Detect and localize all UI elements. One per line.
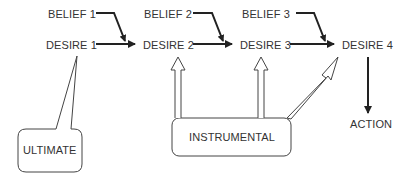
- arrow-belief3-to-desire4: [296, 13, 325, 41]
- hollow-arrow-to-desire2: [171, 57, 185, 118]
- hollow-arrow-to-desire3: [254, 57, 268, 118]
- arrow-belief1-to-desire2: [96, 13, 125, 41]
- ultimate-label: ULTIMATE: [23, 144, 77, 156]
- belief-3-label: BELIEF 3: [242, 8, 290, 20]
- desire-1-label: DESIRE 1: [46, 39, 97, 51]
- arrow-belief2-to-desire3: [193, 13, 223, 41]
- diagram-connectors: [0, 0, 406, 185]
- desire-belief-diagram: BELIEF 1 BELIEF 2 BELIEF 3 DESIRE 1 DESI…: [0, 0, 406, 185]
- instrumental-label: INSTRUMENTAL: [189, 131, 275, 143]
- action-label: ACTION: [350, 118, 392, 130]
- hollow-arrow-to-desire4: [287, 57, 338, 119]
- desire-4-label: DESIRE 4: [342, 39, 393, 51]
- belief-1-label: BELIEF 1: [48, 8, 96, 20]
- belief-2-label: BELIEF 2: [144, 8, 192, 20]
- desire-3-label: DESIRE 3: [240, 39, 291, 51]
- desire-2-label: DESIRE 2: [143, 39, 194, 51]
